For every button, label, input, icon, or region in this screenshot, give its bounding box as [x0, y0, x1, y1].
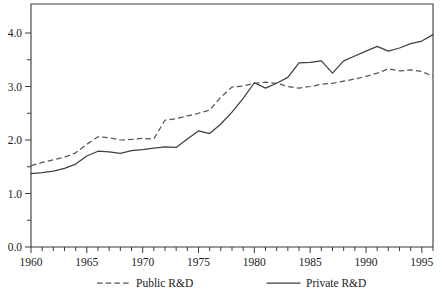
legend-label: Private R&D — [306, 277, 366, 289]
y-axis-tick-label: 3.0 — [8, 81, 23, 93]
series-layer — [31, 35, 433, 174]
y-axis-labels: 0.01.02.03.04.0 — [8, 27, 23, 253]
y-axis-tick-label: 4.0 — [8, 27, 23, 39]
x-axis-tick-label: 1970 — [131, 256, 154, 268]
x-axis-tick-label: 1990 — [355, 256, 378, 268]
y-axis-tick-label: 2.0 — [8, 134, 23, 146]
y-axis-tick-label: 0.0 — [8, 241, 23, 253]
x-axis-ticks — [31, 247, 433, 253]
x-axis-tick-label: 1975 — [187, 256, 210, 268]
x-axis-tick-label: 1995 — [410, 256, 433, 268]
x-axis-labels: 19601965197019751980198519901995 — [20, 256, 434, 268]
series-line-public-r-d — [31, 69, 433, 166]
y-axis-tick-label: 1.0 — [8, 188, 23, 200]
x-axis-tick-label: 1980 — [243, 256, 266, 268]
x-axis-tick-label: 1960 — [20, 256, 43, 268]
chart-legend: Public R&DPrivate R&D — [97, 277, 366, 289]
line-chart-svg: 0.01.02.03.04.0 196019651970197519801985… — [0, 0, 441, 302]
x-axis-tick-label: 1965 — [75, 256, 98, 268]
chart-container: 0.01.02.03.04.0 196019651970197519801985… — [0, 0, 441, 302]
series-line-private-r-d — [31, 35, 433, 174]
legend-label: Public R&D — [136, 277, 193, 289]
plot-frame — [31, 4, 433, 247]
x-axis-tick-label: 1985 — [299, 256, 322, 268]
y-axis-ticks — [25, 33, 31, 247]
